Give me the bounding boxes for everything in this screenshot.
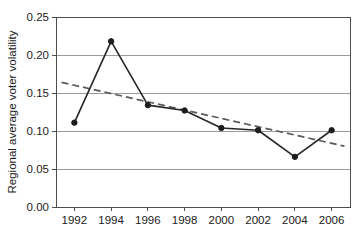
y-axis-title: Regional average voter volatility bbox=[6, 30, 18, 193]
y-tick-label: 0.00 bbox=[27, 201, 49, 213]
y-tick-label: 0.25 bbox=[27, 11, 49, 23]
chart-container: 0.000.050.100.150.200.25 199219941996199… bbox=[0, 0, 364, 238]
x-tick-label: 1992 bbox=[62, 214, 88, 226]
x-tick-label: 1994 bbox=[98, 214, 124, 226]
data-point-marker bbox=[145, 102, 150, 107]
data-point-marker bbox=[72, 120, 77, 125]
y-tick-label: 0.10 bbox=[27, 125, 49, 137]
y-tick-label: 0.05 bbox=[27, 163, 49, 175]
x-tick-label: 2000 bbox=[209, 214, 235, 226]
data-point-marker bbox=[108, 39, 113, 44]
x-tick-label: 1998 bbox=[172, 214, 198, 226]
x-tick-label: 2002 bbox=[245, 214, 271, 226]
x-tick-label: 2006 bbox=[319, 214, 345, 226]
x-tick-label: 2004 bbox=[282, 214, 308, 226]
data-point-marker bbox=[219, 125, 224, 130]
data-point-marker bbox=[329, 128, 334, 133]
y-tick-label: 0.15 bbox=[27, 87, 49, 99]
x-tick-label: 1996 bbox=[135, 214, 161, 226]
y-tick-label: 0.20 bbox=[27, 49, 49, 61]
data-point-marker bbox=[182, 108, 187, 113]
data-point-marker bbox=[292, 154, 297, 159]
voter-volatility-line-chart: 0.000.050.100.150.200.25 199219941996199… bbox=[0, 0, 364, 238]
chart-background bbox=[0, 0, 364, 238]
data-point-marker bbox=[255, 128, 260, 133]
